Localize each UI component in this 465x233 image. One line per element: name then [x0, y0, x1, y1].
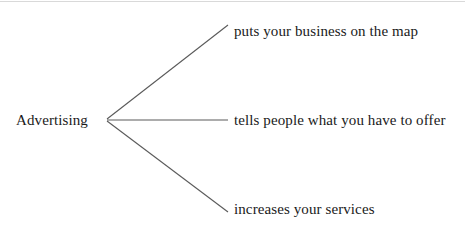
root-node-label: Advertising — [16, 111, 88, 129]
connector-line-bottom — [107, 121, 228, 212]
connector-line-top — [107, 25, 228, 119]
branch-label-increases-your-services: increases your services — [234, 200, 375, 218]
diagram-canvas: Advertising puts your business on the ma… — [0, 0, 465, 233]
branch-label-tells-people-what-you-have-to-offer: tells people what you have to offer — [234, 111, 446, 129]
branch-label-puts-your-business-on-the-map: puts your business on the map — [234, 22, 418, 40]
